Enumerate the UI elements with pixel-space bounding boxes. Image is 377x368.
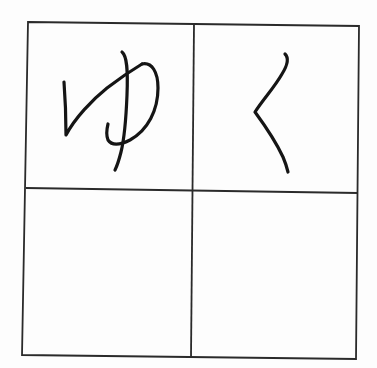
cell-1-1-character-yu [64, 52, 158, 170]
cell-2-1-empty [28, 194, 188, 352]
practice-grid [0, 0, 377, 368]
worksheet-page: ゆ く [0, 0, 377, 368]
cell-1-2-character-ku [255, 54, 288, 172]
cell-2-2-empty [196, 196, 353, 354]
